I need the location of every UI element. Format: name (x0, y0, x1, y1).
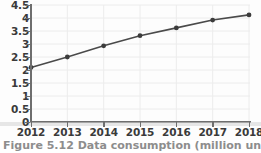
x-tick-label: 2017 (193, 127, 233, 138)
x-tick-mark (103, 122, 105, 127)
x-tick-label: 2015 (120, 127, 160, 138)
figure-caption: Figure 5.12 Data consumption (million un… (0, 140, 261, 153)
x-tick-mark (212, 122, 214, 127)
x-axis-ticks: 2012201320142015201620172018 (0, 0, 261, 153)
x-tick-label: 2016 (156, 127, 196, 138)
x-tick-mark (249, 122, 251, 127)
x-tick-mark (140, 122, 142, 127)
x-tick-label: 2013 (47, 127, 87, 138)
x-tick-label: 2018 (229, 127, 261, 138)
x-tick-label: 2012 (11, 127, 51, 138)
x-tick-label: 2014 (84, 127, 124, 138)
x-tick-mark (67, 122, 69, 127)
x-tick-mark (31, 122, 33, 127)
figure-container: 00.511.522.533.544.5 2012201320142015201… (0, 0, 261, 153)
x-tick-mark (176, 122, 178, 127)
figure-caption-text: Figure 5.12 Data consumption (million un… (3, 140, 261, 152)
